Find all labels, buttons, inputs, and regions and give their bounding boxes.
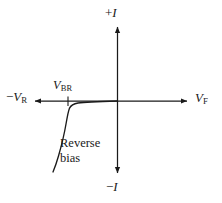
positive-current-symbol: I — [112, 5, 116, 20]
axis-label-reverse-voltage: −VR — [6, 90, 27, 105]
reverse-bias-annotation-line1: Reverse — [60, 136, 100, 151]
axis-label-forward-voltage: VF — [195, 91, 208, 106]
reverse-voltage-subscript: R — [21, 95, 27, 105]
breakdown-voltage-subscript: BR — [61, 83, 73, 93]
axis-label-positive-current: +I — [105, 6, 117, 19]
negative-current-symbol: I — [113, 179, 117, 194]
breakdown-voltage-label: VBR — [53, 79, 72, 92]
diode-iv-characteristic-figure: +I −I −VR VF VBR Reverse bias — [0, 0, 222, 203]
diagram-canvas — [0, 0, 222, 203]
forward-voltage-symbol: V — [195, 90, 203, 105]
forward-voltage-subscript: F — [203, 96, 208, 106]
axis-label-negative-current: −I — [106, 180, 118, 193]
breakdown-voltage-symbol: V — [53, 78, 61, 92]
reverse-bias-annotation-line2: bias — [60, 151, 100, 166]
reverse-bias-annotation: Reverse bias — [60, 136, 100, 167]
